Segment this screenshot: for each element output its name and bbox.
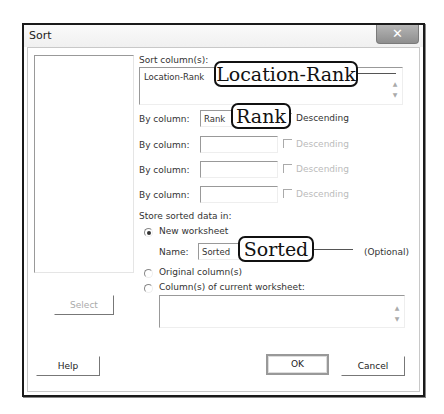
dialog-title: Sort — [29, 29, 52, 42]
original-columns-radio[interactable] — [144, 269, 153, 278]
title-bar: Sort ✕ — [24, 25, 423, 47]
cancel-button[interactable]: Cancel — [341, 356, 405, 376]
new-worksheet-label: New worksheet — [159, 226, 228, 236]
by-column-input-4[interactable] — [200, 186, 278, 203]
current-worksheet-columns-radio[interactable] — [144, 284, 153, 293]
name-label: Name: — [159, 247, 189, 257]
store-label: Store sorted data in: — [139, 211, 232, 221]
ok-button[interactable]: OK — [266, 354, 329, 375]
descending-label-4: Descending — [296, 189, 349, 199]
descending-label-1: Descending — [296, 113, 349, 123]
by-column-input-3[interactable] — [200, 161, 278, 178]
callout-line — [358, 73, 396, 74]
by-column-callout: Rank — [231, 103, 291, 129]
callout-line — [313, 249, 353, 250]
new-worksheet-radio[interactable] — [144, 228, 153, 237]
by-column-label-1: By column: — [139, 114, 190, 124]
current-worksheet-columns-label: Column(s) of current worksheet: — [159, 282, 305, 292]
by-column-label-3: By column: — [139, 165, 190, 175]
descending-checkbox-4[interactable] — [283, 189, 292, 198]
help-button[interactable]: Help — [36, 356, 100, 376]
dialog-body: Select Sort column(s): Location-Rank ▲▼ … — [27, 47, 420, 392]
descending-checkbox-2[interactable] — [283, 139, 292, 148]
name-callout: Sorted — [238, 236, 314, 262]
close-button[interactable]: ✕ — [376, 25, 419, 44]
scroll-arrows-icon[interactable]: ▲▼ — [392, 78, 398, 100]
sort-columns-callout: Location-Rank — [214, 61, 358, 87]
optional-label: (Optional) — [364, 247, 409, 257]
sort-columns-label: Sort column(s): — [139, 55, 208, 65]
sort-dialog: Sort ✕ Select Sort column(s): Location-R… — [22, 23, 425, 397]
by-column-input-2[interactable] — [200, 136, 278, 153]
current-worksheet-columns-input[interactable]: ▲▼ — [159, 295, 405, 328]
by-column-value-1: Rank — [204, 114, 225, 124]
descending-label-3: Descending — [296, 164, 349, 174]
by-column-label-2: By column: — [139, 140, 190, 150]
original-columns-label: Original column(s) — [159, 267, 242, 277]
select-button[interactable]: Select — [54, 295, 114, 315]
variable-list[interactable] — [34, 55, 134, 273]
worksheet-name-value: Sorted — [202, 247, 230, 257]
descending-label-2: Descending — [296, 139, 349, 149]
sort-columns-value: Location-Rank — [144, 72, 204, 82]
by-column-label-4: By column: — [139, 190, 190, 200]
close-x-icon: ✕ — [392, 26, 403, 41]
descending-checkbox-3[interactable] — [283, 164, 292, 173]
scroll-arrows-icon[interactable]: ▲▼ — [394, 302, 400, 324]
